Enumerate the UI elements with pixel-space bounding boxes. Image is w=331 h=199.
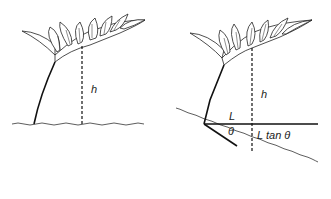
angle-label: θ — [228, 125, 234, 137]
stem — [204, 65, 224, 124]
height-label: h — [261, 88, 267, 100]
slope-ground-line — [176, 108, 318, 162]
plant-on-slope-diagram: h h L θ L tan θ — [0, 0, 331, 199]
ground-line — [12, 123, 144, 125]
right-panel-sloped-ground: h L θ L tan θ — [176, 18, 318, 162]
left-panel-flat-ground: h — [12, 14, 145, 125]
offset-label: L tan θ — [257, 129, 290, 141]
leaf-canopy — [190, 18, 312, 65]
stem — [34, 62, 55, 124]
leaf-canopy — [22, 14, 145, 62]
horizontal-label: L — [229, 110, 235, 122]
height-label: h — [91, 83, 97, 95]
